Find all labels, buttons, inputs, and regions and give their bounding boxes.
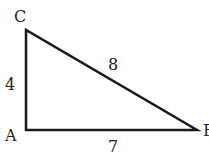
side-label-ab: 7 — [108, 137, 118, 155]
vertex-label-b: B — [203, 121, 209, 140]
vertex-label-c: C — [14, 7, 26, 26]
side-label-cb: 8 — [108, 55, 118, 74]
side-label-ac: 4 — [5, 75, 15, 94]
vertex-label-a: A — [4, 126, 17, 145]
triangle-shape — [26, 30, 197, 130]
triangle-diagram: C 4 A 8 7 B — [0, 0, 209, 155]
